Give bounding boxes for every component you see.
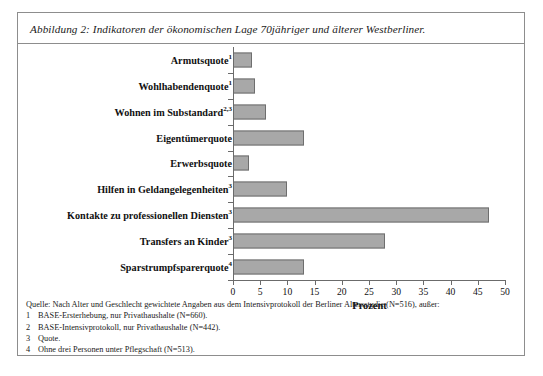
x-axis-tick-label: 20 <box>337 286 347 297</box>
x-axis-tick-label: 45 <box>473 286 483 297</box>
x-axis-tick <box>478 281 479 285</box>
y-axis-tick <box>228 176 233 177</box>
bar <box>233 104 266 119</box>
bar-category-label: Eigentümerquote <box>156 132 232 143</box>
footnote-marker: 1 <box>229 79 233 87</box>
figure-caption: Abbildung 2: Indikatoren der ökonomische… <box>30 23 425 35</box>
footnote-text: BASE-Ersterhebung, nur Privathaushalte (… <box>38 310 207 321</box>
y-axis-tick <box>228 99 233 100</box>
footnote-marker: 2,3 <box>223 105 232 113</box>
x-axis-tick <box>233 281 234 285</box>
x-axis-tick-label: 40 <box>446 286 456 297</box>
y-axis-tick <box>228 151 233 152</box>
bar <box>233 208 489 223</box>
footnote-number: 1 <box>26 310 38 321</box>
x-axis-tick <box>287 281 288 285</box>
bar-category-label: Wohnen im Substandard2,3 <box>115 106 232 117</box>
footnote-marker: 4 <box>229 260 233 268</box>
x-axis-tick-label: 50 <box>500 286 510 297</box>
y-axis-tick <box>228 254 233 255</box>
footnote-item: 4Ohne drei Personen unter Pflegschaft (N… <box>26 344 520 355</box>
footnote-marker: 3 <box>229 208 233 216</box>
footnote-marker: 3 <box>229 182 233 190</box>
x-axis-tick-label: 35 <box>419 286 429 297</box>
bar-row: Transfers an Kinder3 <box>18 228 524 254</box>
x-axis-tick <box>423 281 424 285</box>
footnote-number: 4 <box>26 344 38 355</box>
bar-chart-plot-area: Armutsquote1Wohlhabendenquote1Wohnen im … <box>18 44 524 288</box>
bar-row: Erwerbsquote <box>18 151 524 177</box>
bar <box>233 78 255 93</box>
x-axis-tick <box>260 281 261 285</box>
bar <box>233 260 304 275</box>
bar-category-label: Wohlhabendenquote1 <box>138 80 232 91</box>
footnote-marker: 1 <box>229 53 233 61</box>
footnote-marker: 3 <box>229 234 233 242</box>
footnote-text: BASE-Intensivprotokoll, nur Privathausha… <box>38 322 220 333</box>
x-axis-tick-label: 10 <box>283 286 293 297</box>
bar-category-label: Sparstrumpfsparerquote4 <box>120 262 232 273</box>
bar-category-label: Armutsquote1 <box>171 54 232 65</box>
x-axis-tick-label: 15 <box>310 286 320 297</box>
y-axis-tick <box>228 125 233 126</box>
y-axis-tick <box>228 228 233 229</box>
footnote-text: Ohne drei Personen unter Pflegschaft (N=… <box>38 344 195 355</box>
bar-category-label: Hilfen in Geldangelegenheiten3 <box>97 184 232 195</box>
footnotes-list: 1BASE-Ersterhebung, nur Privathaushalte … <box>26 310 520 355</box>
x-axis-tick <box>315 281 316 285</box>
x-axis-tick-label: 0 <box>231 286 236 297</box>
x-axis-tick <box>369 281 370 285</box>
y-axis-tick <box>228 202 233 203</box>
source-line: Quelle: Nach Alter und Geschlecht gewich… <box>26 299 520 310</box>
bar-row: Sparstrumpfsparerquote4 <box>18 254 524 280</box>
bar-row: Armutsquote1 <box>18 47 524 73</box>
x-axis-tick <box>451 281 452 285</box>
bar-row: Wohnen im Substandard2,3 <box>18 99 524 125</box>
y-axis-tick <box>228 280 233 281</box>
bar <box>233 156 249 171</box>
bar-row: Wohlhabendenquote1 <box>18 73 524 99</box>
x-axis-tick <box>396 281 397 285</box>
bar <box>233 234 385 249</box>
bar <box>233 130 304 145</box>
figure-frame: Abbildung 2: Indikatoren der ökonomische… <box>17 12 525 356</box>
bar-category-label: Transfers an Kinder3 <box>140 236 232 247</box>
footnote-item: 1BASE-Ersterhebung, nur Privathaushalte … <box>26 310 520 321</box>
footnote-number: 3 <box>26 333 38 344</box>
footnote-number: 2 <box>26 322 38 333</box>
y-axis-tick <box>228 73 233 74</box>
x-axis-tick <box>342 281 343 285</box>
x-axis-tick-label: 25 <box>364 286 374 297</box>
bar-category-label: Kontakte zu professionellen Diensten3 <box>67 210 232 221</box>
bar <box>233 182 287 197</box>
y-axis-line <box>233 47 234 280</box>
bar <box>233 52 252 67</box>
x-axis-tick-label: 5 <box>258 286 263 297</box>
bar-category-label: Erwerbsquote <box>170 158 232 169</box>
footnote-item: 3Quote. <box>26 333 520 344</box>
footnote-text: Quote. <box>38 333 60 344</box>
x-axis-tick-label: 30 <box>391 286 401 297</box>
bar-row: Eigentümerquote <box>18 125 524 151</box>
bar-row: Hilfen in Geldangelegenheiten3 <box>18 176 524 202</box>
bar-row: Kontakte zu professionellen Diensten3 <box>18 202 524 228</box>
x-axis-tick <box>505 281 506 285</box>
footnote-item: 2BASE-Intensivprotokoll, nur Privathaush… <box>26 322 520 333</box>
source-notes: Quelle: Nach Alter und Geschlecht gewich… <box>26 299 520 355</box>
